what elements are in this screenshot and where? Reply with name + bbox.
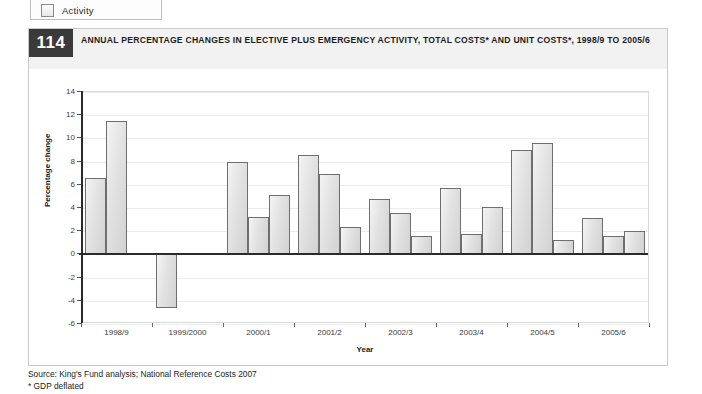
chart-bar <box>106 121 127 254</box>
y-tick-label: -2 <box>53 272 75 281</box>
y-axis-title: Percentage change <box>43 134 52 207</box>
chart-bar <box>624 231 645 254</box>
chart-bar <box>227 162 248 255</box>
y-tick-label: 10 <box>53 133 75 142</box>
chart-bar <box>553 240 574 254</box>
chart-bar <box>340 227 361 255</box>
x-tick-mark <box>436 323 437 327</box>
y-tick-label: 6 <box>53 179 75 188</box>
chart-bar <box>319 174 340 254</box>
bars-layer <box>81 92 648 322</box>
y-tick-label: 8 <box>53 156 75 165</box>
x-tick-label: 2004/5 <box>530 328 554 337</box>
square-swatch-icon <box>41 4 54 17</box>
chart-bar <box>511 150 532 254</box>
chart-bar <box>369 199 390 255</box>
chart-plot-box <box>81 91 649 323</box>
chart-bar <box>582 218 603 254</box>
y-tick-label: 4 <box>53 203 75 212</box>
chart-bar <box>156 254 177 307</box>
x-tick-label: 2001/2 <box>317 328 341 337</box>
chart-bar <box>440 188 461 254</box>
page-title: ANNUAL PERCENTAGE CHANGES IN ELECTIVE PL… <box>81 34 659 46</box>
figure-frame: 114 ANNUAL PERCENTAGE CHANGES IN ELECTIV… <box>28 28 668 366</box>
x-tick-label: 2000/1 <box>246 328 270 337</box>
x-tick-mark <box>223 323 224 327</box>
y-tick-label: 14 <box>53 87 75 96</box>
x-tick-label: 1999/2000 <box>169 328 207 337</box>
y-tick-label: -4 <box>53 295 75 304</box>
chart-bar <box>85 178 106 255</box>
x-tick-mark <box>294 323 295 327</box>
x-tick-mark <box>578 323 579 327</box>
x-axis-title: Year <box>81 345 649 354</box>
legend-strip: Activity <box>0 0 702 25</box>
x-tick-mark <box>507 323 508 327</box>
chart-bar <box>482 207 503 255</box>
x-tick-mark <box>649 323 650 327</box>
x-tick-label: 2005/6 <box>601 328 625 337</box>
chart-bar <box>269 195 290 254</box>
x-tick-mark <box>365 323 366 327</box>
source-note: Source: King's Fund analysis; National R… <box>28 368 668 380</box>
chart-bar <box>603 236 624 255</box>
figure-number-badge: 114 <box>29 29 73 57</box>
chart-bar <box>390 213 411 255</box>
deflator-note: * GDP deflated <box>28 380 668 392</box>
zero-axis-line <box>79 253 648 255</box>
chart-plot-area: Percentage change 14121086420-2-4-6 1998… <box>29 69 667 365</box>
y-tick-label: -6 <box>53 319 75 328</box>
x-tick-label: 1998/9 <box>104 328 128 337</box>
y-tick-label: 0 <box>53 249 75 258</box>
legend-box: Activity <box>30 0 162 20</box>
x-tick-label: 2003/4 <box>459 328 483 337</box>
figure-footer: Source: King's Fund analysis; National R… <box>28 368 668 392</box>
chart-bar <box>298 155 319 255</box>
x-tick-mark <box>81 323 82 327</box>
legend-item-activity[interactable]: Activity <box>41 1 94 19</box>
y-tick-label: 2 <box>53 226 75 235</box>
chart-bar <box>411 236 432 255</box>
y-tick-label: 12 <box>53 110 75 119</box>
legend-item-label: Activity <box>62 5 94 16</box>
figure-title-band: 114 ANNUAL PERCENTAGE CHANGES IN ELECTIV… <box>29 29 667 70</box>
x-tick-mark <box>152 323 153 327</box>
chart-bar <box>461 234 482 255</box>
chart-bar <box>248 217 269 254</box>
chart-bar <box>532 143 553 254</box>
x-tick-label: 2002/3 <box>388 328 412 337</box>
